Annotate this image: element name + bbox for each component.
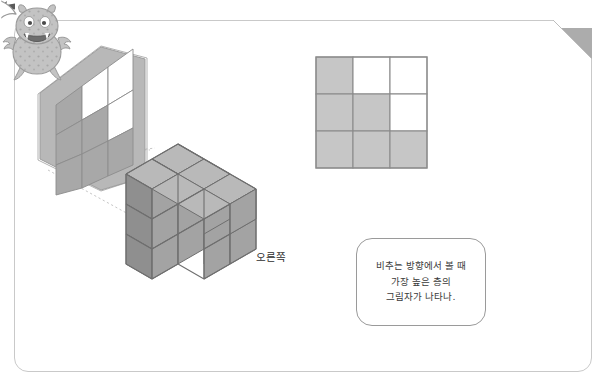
answer-cell-0-1 bbox=[353, 57, 390, 94]
answer-cell-2-2 bbox=[390, 131, 427, 168]
speech-bubble-line-1: 비추는 방향에서 볼 때 bbox=[376, 260, 466, 273]
answer-cell-1-2 bbox=[390, 94, 427, 131]
answer-cell-2-0 bbox=[316, 131, 353, 168]
monster-character-icon bbox=[0, 0, 74, 84]
block-structure bbox=[126, 144, 256, 279]
speech-bubble: 비추는 방향에서 볼 때 가장 높은 층의 그림자가 나타나. bbox=[356, 238, 486, 326]
answer-cell-2-1 bbox=[353, 131, 390, 168]
diagram-stage: 오른쪽 비추는 방향에서 볼 때 가장 높은 층의 그림자가 나타나. bbox=[0, 0, 609, 392]
shadow-projection-illustration bbox=[0, 0, 609, 392]
answer-cell-1-1 bbox=[353, 94, 390, 131]
speech-bubble-line-2: 가장 높은 층의 bbox=[391, 276, 451, 289]
direction-label: 오른쪽 bbox=[256, 249, 286, 264]
speech-bubble-line-3: 그림자가 나타나. bbox=[386, 291, 455, 304]
answer-grid bbox=[316, 57, 427, 168]
answer-cell-1-0 bbox=[316, 94, 353, 131]
answer-cell-0-0 bbox=[316, 57, 353, 94]
answer-cell-0-2 bbox=[390, 57, 427, 94]
worksheet-page: 오른쪽 비추는 방향에서 볼 때 가장 높은 층의 그림자가 나타나. bbox=[0, 0, 609, 392]
